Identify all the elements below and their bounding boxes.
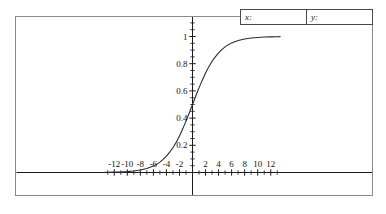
trace-readout-bar[interactable]: x: y: [240, 9, 373, 25]
x-tick-label: -2 [176, 159, 184, 169]
x-tick-label: -10 [121, 159, 133, 169]
x-tick-label: 2 [203, 159, 208, 169]
y-tick-label: 0.6 [176, 86, 187, 96]
readout-y-label: y: [311, 13, 318, 22]
plot-canvas [0, 0, 386, 214]
graph-screen: -12-10-8-6-4-224681012 0.20.40.60.81 x: … [0, 0, 386, 214]
y-tick-label: 0.8 [176, 59, 187, 69]
x-tick-label: 6 [229, 159, 234, 169]
x-tick-label: 12 [266, 159, 275, 169]
y-tick-label: 0.4 [176, 113, 187, 123]
x-tick-label: 8 [242, 159, 247, 169]
x-tick-label: -8 [137, 159, 145, 169]
x-tick-label: -6 [150, 159, 158, 169]
x-tick-label: -4 [163, 159, 171, 169]
x-tick-label: 10 [253, 159, 262, 169]
x-tick-label: -12 [108, 159, 120, 169]
y-tick-label: 1 [183, 32, 188, 42]
y-tick-label: 0.2 [176, 140, 187, 150]
readout-x-cell[interactable]: x: [241, 10, 306, 24]
readout-x-label: x: [245, 13, 252, 22]
x-tick-label: 4 [216, 159, 221, 169]
readout-y-cell[interactable]: y: [306, 10, 372, 24]
